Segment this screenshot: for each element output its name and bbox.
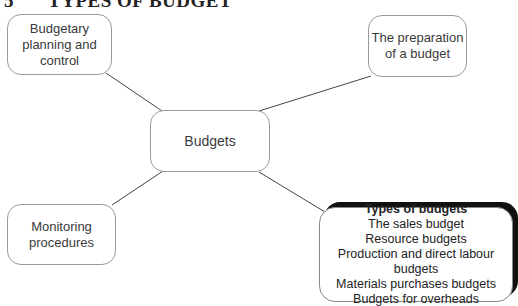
connector-bottom-left xyxy=(112,171,163,205)
types-item: Budgets for overheads xyxy=(353,292,479,306)
connector-bottom-right xyxy=(259,172,325,212)
types-heading: Types of budgets xyxy=(365,202,468,217)
node-budgets-center: Budgets xyxy=(150,110,270,172)
node-preparation: The preparation of a budget xyxy=(368,15,467,77)
node-label: Budgetary planning and control xyxy=(8,21,111,69)
connector-top-right xyxy=(259,76,371,111)
types-item: Production and direct labour budgets xyxy=(320,247,512,277)
node-budgetary-planning: Budgetary planning and control xyxy=(7,14,112,75)
types-item: Materials purchases budgets xyxy=(336,277,496,292)
types-item: Resource budgets xyxy=(365,232,466,247)
node-label: The preparation of a budget xyxy=(369,30,466,62)
node-label: Budgets xyxy=(184,133,235,149)
node-types-of-budgets: Types of budgets The sales budget Resour… xyxy=(319,207,513,302)
node-label: Monitoring procedures xyxy=(8,219,115,251)
node-monitoring: Monitoring procedures xyxy=(7,204,116,265)
connector-top-left xyxy=(106,73,165,113)
types-item: The sales budget xyxy=(368,217,464,232)
